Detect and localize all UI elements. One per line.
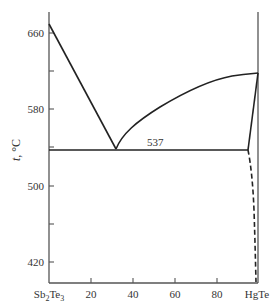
x-label-40: 40 — [128, 288, 140, 300]
x-label-60: 60 — [170, 288, 182, 300]
x-ticks — [91, 278, 217, 283]
y-label-580: 580 — [28, 103, 45, 115]
x-label-sb2te3: Sb2Te3 — [34, 288, 64, 303]
x-label-80: 80 — [212, 288, 224, 300]
liquidus-right-curve — [116, 73, 258, 149]
y-title-unit: , °C — [9, 139, 23, 158]
x-tick-labels: Sb2Te3 20 40 60 80 HgTe — [34, 288, 269, 303]
eutectic-temperature-label: 537 — [147, 136, 164, 148]
x-label-hgte: HgTe — [245, 288, 269, 300]
x-label-20: 20 — [86, 288, 98, 300]
y-label-420: 420 — [28, 256, 45, 268]
y-tick-labels: 660 580 500 420 — [28, 27, 45, 268]
liquidus-left-line — [49, 24, 116, 149]
phase-lines — [49, 24, 258, 282]
svg-text:t, °C: t, °C — [9, 139, 23, 161]
y-axis-title: t, °C — [9, 139, 23, 161]
y-ticks — [49, 33, 54, 262]
phase-diagram: 660 580 500 420 t, °C Sb2Te3 20 40 60 80… — [0, 0, 275, 305]
solidus-line — [248, 73, 258, 150]
y-label-660: 660 — [28, 27, 45, 39]
y-label-500: 500 — [28, 180, 45, 192]
solvus-dashed-line — [248, 150, 256, 282]
